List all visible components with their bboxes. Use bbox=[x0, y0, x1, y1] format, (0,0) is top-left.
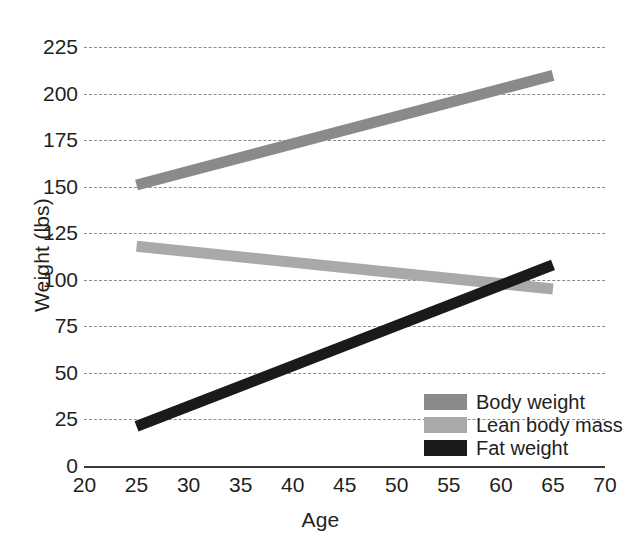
series-line bbox=[137, 75, 553, 185]
x-axis-title: Age bbox=[0, 508, 641, 532]
legend-label: Body weight bbox=[476, 392, 585, 412]
legend-item: Fat weight bbox=[424, 437, 630, 459]
legend-color-swatch bbox=[424, 394, 467, 410]
legend-item: Lean body mass bbox=[424, 414, 630, 436]
legend-label: Lean body mass bbox=[476, 415, 623, 435]
series-line bbox=[137, 246, 553, 289]
series-layer bbox=[0, 0, 641, 549]
legend-label: Fat weight bbox=[476, 438, 568, 458]
legend-color-swatch bbox=[424, 417, 467, 433]
y-axis-title: Weight (lbs) bbox=[30, 125, 54, 385]
legend-item: Body weight bbox=[424, 391, 630, 413]
chart-legend: Body weightLean body massFat weight bbox=[424, 391, 630, 460]
chart-figure: 0255075100125150175200225 20253035404550… bbox=[0, 0, 641, 549]
legend-color-swatch bbox=[424, 440, 467, 456]
